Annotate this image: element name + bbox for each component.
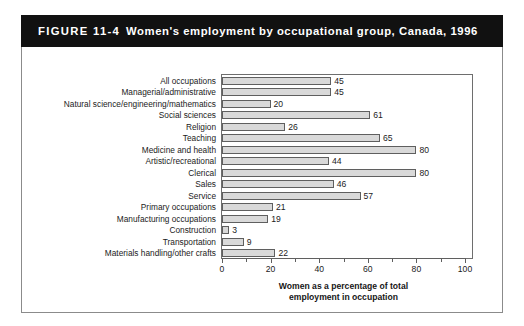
bar-track: 19: [222, 213, 465, 225]
x-axis-major-tick: [222, 258, 223, 263]
bar-row: Religion26: [0, 121, 524, 133]
category-label: Construction: [169, 225, 216, 235]
bar-value-label: 46: [334, 179, 347, 189]
bar-rows-container: All occupations45Managerial/administrati…: [0, 74, 524, 258]
bar-track: 61: [222, 110, 465, 122]
bar-value-label: 21: [273, 202, 286, 212]
x-axis-tick-label: 40: [314, 264, 324, 274]
bar-value-label: 80: [416, 168, 429, 178]
figure-title: Women's employment by occupational group…: [126, 25, 478, 37]
x-axis-major-tick: [416, 258, 417, 263]
figure-number: FIGURE 11-4: [38, 25, 120, 37]
x-axis-minor-tick: [392, 258, 393, 262]
category-label: Managerial/administrative: [121, 87, 216, 97]
bar: [222, 157, 329, 165]
category-label: Artistic/recreational: [145, 156, 216, 166]
bar-row: Managerial/administrative45: [0, 87, 524, 99]
bar: [222, 180, 334, 188]
x-axis-minor-tick: [295, 258, 296, 262]
x-axis-minor-tick: [246, 258, 247, 262]
bar-value-label: 9: [244, 237, 252, 247]
x-axis-tick-label: 80: [412, 264, 422, 274]
bar-track: 45: [222, 75, 465, 87]
category-label: Medicine and health: [142, 145, 216, 155]
bar-value-label: 45: [331, 76, 344, 86]
bar: [222, 123, 285, 131]
x-axis-major-tick: [271, 258, 272, 263]
bar-value-label: 57: [361, 191, 374, 201]
x-axis-title-line1: Women as a percentage of total: [222, 281, 465, 292]
bar-row: Artistic/recreational44: [0, 156, 524, 168]
x-axis-tick-label: 100: [458, 264, 472, 274]
bar-track: 80: [222, 167, 465, 179]
bar-row: All occupations45: [0, 75, 524, 87]
bar-row: Manufacturing occupations19: [0, 213, 524, 225]
x-axis-major-tick: [465, 258, 466, 263]
bar: [222, 192, 361, 200]
category-label: Teaching: [183, 133, 216, 143]
category-label: Religion: [186, 122, 216, 132]
x-axis-tick-label: 20: [266, 264, 276, 274]
bar-value-label: 65: [380, 133, 393, 143]
x-axis-minor-tick: [344, 258, 345, 262]
bar-value-label: 80: [416, 145, 429, 155]
bar: [222, 111, 370, 119]
bar-value-label: 19: [268, 214, 281, 224]
bar-value-label: 61: [370, 110, 383, 120]
x-axis-tick-label: 0: [220, 264, 225, 274]
bar-track: 9: [222, 236, 465, 248]
bar: [222, 134, 380, 142]
figure-title-banner: FIGURE 11-4Women's employment by occupat…: [21, 15, 503, 47]
x-axis-major-tick: [319, 258, 320, 263]
figure-root: FIGURE 11-4Women's employment by occupat…: [0, 0, 524, 326]
bar-value-label: 44: [329, 156, 342, 166]
bar-row: Medicine and health80: [0, 144, 524, 156]
bar-row: Construction3: [0, 225, 524, 237]
bar-track: 26: [222, 121, 465, 133]
bar-value-label: 26: [285, 122, 298, 132]
x-axis-title-line2: employment in occupation: [222, 292, 465, 303]
bar-track: 21: [222, 202, 465, 214]
bar-track: 3: [222, 225, 465, 237]
category-label: All occupations: [160, 76, 216, 86]
category-label: Primary occupations: [141, 202, 216, 212]
x-axis-title: Women as a percentage of total employmen…: [222, 281, 465, 302]
bar-row: Natural science/engineering/mathematics2…: [0, 98, 524, 110]
bar-row: Teaching65: [0, 133, 524, 145]
x-axis-major-tick: [368, 258, 369, 263]
bar-track: 80: [222, 144, 465, 156]
bar-track: 57: [222, 190, 465, 202]
bar: [222, 215, 268, 223]
x-axis-tick-label: 60: [363, 264, 373, 274]
bar-row: Primary occupations21: [0, 202, 524, 214]
x-axis-minor-tick: [441, 258, 442, 262]
bar-track: 45: [222, 87, 465, 99]
bar: [222, 249, 275, 257]
bar-track: 65: [222, 133, 465, 145]
category-label: Social sciences: [159, 110, 216, 120]
bar: [222, 226, 229, 234]
bar: [222, 88, 331, 96]
bar-row: Social sciences61: [0, 110, 524, 122]
bar-value-label: 3: [229, 225, 237, 235]
bar: [222, 169, 416, 177]
bar-value-label: 45: [331, 87, 344, 97]
bar-value-label: 20: [271, 99, 284, 109]
bar-value-label: 22: [275, 248, 288, 258]
bar: [222, 238, 244, 246]
bar-track: 44: [222, 156, 465, 168]
category-label: Natural science/engineering/mathematics: [64, 99, 216, 109]
bar: [222, 203, 273, 211]
bar: [222, 77, 331, 85]
bar-row: Service57: [0, 190, 524, 202]
category-label: Sales: [195, 179, 216, 189]
bar-row: Transportation9: [0, 236, 524, 248]
category-label: Transportation: [163, 237, 216, 247]
bar-row: Clerical80: [0, 167, 524, 179]
category-label: Materials handling/other crafts: [105, 248, 216, 258]
category-label: Service: [188, 191, 216, 201]
bar: [222, 146, 416, 154]
category-label: Manufacturing occupations: [117, 214, 216, 224]
category-label: Clerical: [188, 168, 216, 178]
bar: [222, 100, 271, 108]
